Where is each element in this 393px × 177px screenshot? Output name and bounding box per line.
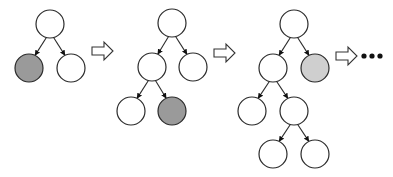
tree-edge <box>297 37 309 55</box>
tree-edge <box>137 80 149 98</box>
ellipsis-icon <box>361 53 382 58</box>
transition-arrow-icon <box>92 42 113 60</box>
tree-node-root <box>36 10 64 38</box>
tree-node-root <box>280 10 308 38</box>
tree-node-r <box>57 54 85 82</box>
transition-arrow-icon <box>336 47 357 65</box>
tree-node-ll <box>238 97 266 125</box>
tree-expansion-diagram <box>0 0 393 177</box>
ellipsis-dot <box>369 53 374 58</box>
tree-node-root <box>158 9 186 37</box>
tree-edge <box>155 80 166 98</box>
tree-node-ll <box>117 97 145 125</box>
tree-edge <box>298 124 309 141</box>
tree-node-l <box>259 54 287 82</box>
tree-edge <box>175 36 187 54</box>
tree-node-lrl <box>259 140 287 168</box>
ellipsis-dot <box>377 53 382 58</box>
tree-node-l <box>15 54 43 82</box>
tree-step-1 <box>15 10 85 82</box>
tree-edge <box>258 81 269 98</box>
tree-edge <box>158 36 169 54</box>
tree-node-l <box>138 53 166 81</box>
ellipsis-dot <box>361 53 366 58</box>
tree-edge <box>53 37 65 55</box>
transition-arrow-icon <box>214 44 235 62</box>
tree-node-lr <box>158 97 186 125</box>
tree-edge <box>35 37 47 55</box>
tree-edge <box>279 124 290 141</box>
tree-node-lrr <box>301 140 329 168</box>
tree-edge <box>277 81 288 98</box>
tree-step-3 <box>238 10 329 168</box>
tree-node-r <box>301 54 329 82</box>
tree-node-r <box>179 53 207 81</box>
tree-edge <box>279 37 291 55</box>
tree-node-lr <box>280 97 308 125</box>
tree-step-2 <box>117 9 207 125</box>
